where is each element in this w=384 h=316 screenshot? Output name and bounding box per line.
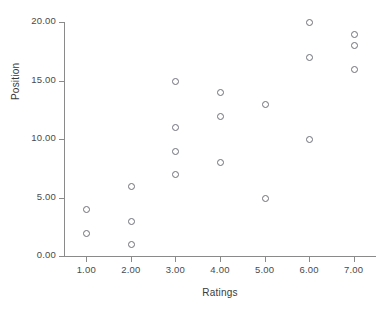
data-point — [172, 124, 179, 131]
data-point — [128, 241, 135, 248]
y-axis-tick — [59, 139, 64, 140]
x-axis-tick-label: 6.00 — [287, 264, 331, 275]
x-axis-tick-label: 1.00 — [64, 264, 108, 275]
data-point — [217, 159, 224, 166]
x-axis-title: Ratings — [64, 287, 376, 298]
data-point — [217, 89, 224, 96]
x-axis-tick-label: 2.00 — [109, 264, 153, 275]
data-point — [172, 148, 179, 155]
data-point — [351, 42, 358, 49]
y-axis-tick-label: 20.00 — [12, 15, 56, 26]
x-axis-tick — [220, 257, 221, 262]
data-point — [306, 19, 313, 26]
data-point — [172, 78, 179, 85]
y-axis-tick-label: 5.00 — [12, 191, 56, 202]
x-axis-tick — [265, 257, 266, 262]
y-axis-tick — [59, 198, 64, 199]
y-axis-title: Position — [10, 63, 21, 100]
data-point — [83, 230, 90, 237]
data-point — [306, 54, 313, 61]
y-axis-tick — [59, 256, 64, 257]
data-point — [83, 206, 90, 213]
x-axis-tick-label: 4.00 — [198, 264, 242, 275]
y-axis-tick — [59, 22, 64, 23]
y-axis-tick-label: 10.00 — [12, 132, 56, 143]
data-point — [262, 195, 269, 202]
data-point — [217, 113, 224, 120]
y-axis-tick-label: 0.00 — [12, 249, 56, 260]
data-point — [128, 218, 135, 225]
x-axis-tick — [354, 257, 355, 262]
data-point — [306, 136, 313, 143]
y-axis-line — [64, 22, 65, 256]
x-axis-tick-label: 3.00 — [153, 264, 197, 275]
x-axis-tick — [86, 257, 87, 262]
y-axis-tick — [59, 81, 64, 82]
data-point — [351, 66, 358, 73]
data-point — [262, 101, 269, 108]
scatter-plot-figure: 0.005.0010.0015.0020.00 1.002.003.004.00… — [0, 0, 384, 316]
data-point — [128, 183, 135, 190]
x-axis-tick-label: 7.00 — [332, 264, 376, 275]
x-axis-tick — [131, 257, 132, 262]
x-axis-tick — [175, 257, 176, 262]
x-axis-tick-label: 5.00 — [243, 264, 287, 275]
data-point — [172, 171, 179, 178]
x-axis-tick — [309, 257, 310, 262]
data-point — [351, 31, 358, 38]
